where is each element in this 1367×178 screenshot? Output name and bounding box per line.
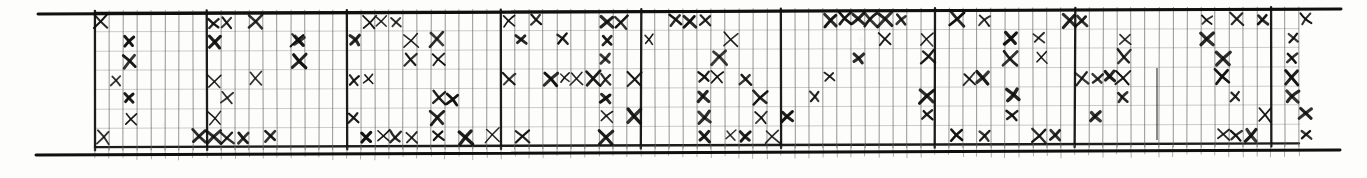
grid-mark-x (1077, 16, 1087, 26)
grid-mark-x (698, 91, 709, 101)
grid-mark-x (920, 90, 934, 103)
grid-mark-x (249, 15, 262, 29)
grid-mark-x (864, 13, 877, 27)
grid-mark-x (1091, 112, 1101, 121)
grid-mark-x (544, 73, 558, 86)
grid-mark-x (350, 75, 359, 85)
grid-line-minor-vertical (1033, 8, 1034, 147)
grid-mark-x (561, 73, 569, 82)
grid-mark-x (1006, 111, 1017, 120)
grid-mark-x (628, 109, 641, 123)
grid-mark-x (700, 131, 709, 141)
grid-mark-x (1201, 33, 1214, 45)
grid-line-minor-vertical (375, 10, 376, 149)
grid-mark-x (1115, 71, 1130, 84)
grid-mark-x (1118, 92, 1127, 102)
grid-mark-x (615, 16, 627, 29)
grid-mark-x (1289, 34, 1298, 43)
grid-mark-x (221, 133, 234, 144)
grid-mark-x (853, 13, 864, 23)
grid-mark-x (684, 16, 696, 27)
grid-mark-x (292, 54, 306, 68)
grid-mark-x (350, 35, 359, 45)
grid-mark-x (430, 111, 444, 125)
grid-mark-x (603, 36, 611, 45)
grid-mark-x (922, 110, 932, 119)
grid-mark-x (125, 36, 134, 46)
grid-mark-x (1007, 89, 1019, 101)
grid-mark-x (391, 18, 401, 26)
grid-mark-x (700, 15, 710, 25)
grid-mark-x (753, 91, 767, 105)
grid-mark-x (250, 71, 261, 84)
grid-line-minor-vertical (1187, 7, 1188, 146)
grid-mark-x (1033, 33, 1044, 43)
grid-mark-x (111, 76, 121, 85)
grid-mark-x (601, 111, 612, 122)
grid-mark-x (406, 132, 417, 143)
grid-mark-x (740, 75, 751, 85)
grid-mark-x (193, 129, 206, 142)
grid-line-minor-vertical (655, 9, 656, 148)
grid-mark-x (854, 54, 864, 63)
grid-mark-x (1230, 13, 1243, 25)
grid-tally-svg (0, 0, 1367, 178)
grid-tick-stub (515, 146, 516, 157)
grid-mark-x (1286, 71, 1298, 85)
grid-mark-x (430, 32, 443, 47)
grid-mark-x (1302, 131, 1312, 139)
grid-mark-x (485, 128, 499, 143)
grid-tick-stub (431, 146, 432, 156)
grid-mark-x (557, 33, 567, 43)
grid-mark-x (979, 15, 990, 25)
grid-mark-x (238, 133, 248, 143)
grid-mark-x (433, 131, 444, 140)
grid-mark-x (980, 131, 990, 141)
grid-tick-stub (781, 145, 782, 155)
grid-line-minor-vertical (277, 10, 278, 149)
grid-mark-x (390, 131, 401, 142)
grid-mark-x (1231, 131, 1242, 141)
grid-mark-x (1231, 92, 1239, 101)
grid-mark-x (977, 72, 988, 84)
grid-mark-x (921, 33, 933, 46)
grid-mark-x (599, 131, 613, 145)
grid-mark-x (1259, 108, 1270, 122)
grid-tick-stub (935, 145, 936, 155)
grid-mark-x (628, 72, 642, 86)
grid-mark-x (1216, 52, 1230, 65)
grid-mark-x (404, 33, 419, 47)
grid-mark-x (921, 50, 935, 63)
grid-line-minor-vertical (431, 10, 432, 149)
grid-mark-x (570, 72, 583, 85)
grid-mark-x (376, 16, 386, 26)
grid-tick-stub (291, 147, 292, 159)
grid-mark-x (698, 72, 708, 82)
grid-mark-x (1037, 52, 1047, 64)
grid-mark-x (1300, 13, 1311, 24)
grid-mark-x (404, 54, 416, 66)
grid-mark-x (601, 17, 613, 28)
grid-mark-x (724, 32, 738, 46)
figure-canvas (0, 0, 1367, 178)
grid-mark-x (1287, 91, 1299, 102)
grid-mark-x (1118, 49, 1131, 63)
grid-mark-x (126, 114, 137, 125)
grid-mark-x (670, 15, 682, 26)
grid-mark-x (711, 71, 723, 83)
grid-mark-x (1075, 72, 1088, 85)
grid-line-minor-vertical (1103, 8, 1104, 147)
grid-mark-x (433, 53, 445, 65)
grid-mark-x (1245, 129, 1256, 141)
grid-mark-x (810, 92, 818, 102)
scanned-sheet (0, 0, 1367, 178)
grid-mark-x (221, 92, 233, 103)
grid-mark-x (516, 130, 530, 142)
grid-mark-x (950, 12, 964, 26)
grid-mark-x (447, 94, 458, 105)
grid-line-minor-vertical (417, 10, 418, 149)
grid-mark-x (600, 74, 610, 86)
grid-mark-x (208, 75, 221, 87)
grid-mark-x (740, 132, 750, 142)
grid-mark-x (755, 112, 767, 124)
